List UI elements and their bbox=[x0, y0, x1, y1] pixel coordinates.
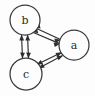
edge-c-a-arrowhead-right-2 bbox=[56, 55, 63, 60]
node-a[interactable]: a bbox=[59, 30, 89, 60]
edge-b-c[interactable] bbox=[19, 35, 31, 59]
graph-diagram: b a c bbox=[0, 0, 95, 96]
node-c[interactable]: c bbox=[10, 58, 42, 90]
node-a-label: a bbox=[71, 39, 78, 52]
node-b-label: b bbox=[21, 14, 28, 27]
graph-canvas-svg: b a c bbox=[0, 0, 95, 96]
edge-b-a-line-1 bbox=[35, 27, 61, 39]
node-c-label: c bbox=[23, 68, 29, 81]
node-b[interactable]: b bbox=[10, 5, 40, 35]
